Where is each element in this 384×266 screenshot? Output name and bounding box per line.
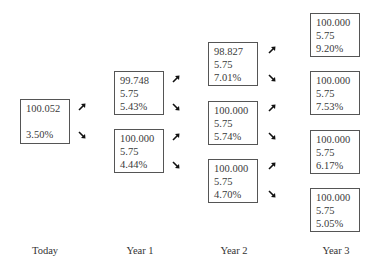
node-value: 100.000 [316,16,359,29]
node-year3-2: 100.000 5.75 7.53% [310,71,360,115]
arrow-down-right-icon [268,132,276,140]
node-today: 100.052 3.50% [20,99,70,144]
node-rate: 4.70% [214,188,257,201]
node-rate: 5.43% [120,100,163,113]
node-value: 100.052 [26,102,69,115]
column-label-year3: Year 3 [306,245,366,256]
node-year3-1: 100.000 5.75 9.20% [310,13,360,57]
arrow-up-right-icon [78,103,86,111]
node-coupon: 5.75 [316,204,359,217]
node-value: 100.000 [316,133,359,146]
arrow-down-right-icon [78,131,86,139]
node-coupon: 5.75 [214,117,257,130]
node-value: 100.000 [214,162,257,175]
node-coupon: 5.75 [316,29,359,42]
arrow-up-right-icon [172,133,180,141]
node-year3-4: 100.000 5.75 5.05% [310,188,360,232]
node-rate: 7.53% [316,100,359,113]
node-value: 100.000 [316,74,359,87]
node-coupon [26,115,69,128]
node-year3-3: 100.000 5.75 6.17% [310,130,360,174]
node-year2-ud: 100.000 5.75 5.74% [208,101,258,145]
node-coupon: 5.75 [316,146,359,159]
node-coupon: 5.75 [120,87,163,100]
arrow-up-right-icon [268,162,276,170]
node-rate: 5.74% [214,130,257,143]
arrow-down-right-icon [268,190,276,198]
node-coupon: 5.75 [316,87,359,100]
node-value: 99.748 [120,74,163,87]
node-value: 98.827 [214,45,257,58]
node-rate: 7.01% [214,71,257,84]
arrow-up-right-icon [268,46,276,54]
node-year1-up: 99.748 5.75 5.43% [114,71,164,115]
column-label-year1: Year 1 [110,245,170,256]
arrow-down-right-icon [172,161,180,169]
node-rate: 3.50% [26,128,69,141]
node-value: 100.000 [316,191,359,204]
node-coupon: 5.75 [214,175,257,188]
node-year1-down: 100.000 5.75 4.44% [114,129,164,173]
node-rate: 4.44% [120,158,163,171]
column-label-year2: Year 2 [204,245,264,256]
node-year2-uu: 98.827 5.75 7.01% [208,42,258,86]
column-label-today: Today [15,245,75,256]
node-rate: 6.17% [316,159,359,172]
arrow-up-right-icon [172,75,180,83]
arrow-down-right-icon [172,103,180,111]
node-value: 100.000 [214,104,257,117]
node-rate: 5.05% [316,217,359,230]
node-rate: 9.20% [316,42,359,55]
arrow-up-right-icon [268,104,276,112]
node-coupon: 5.75 [214,58,257,71]
node-coupon: 5.75 [120,145,163,158]
arrow-down-right-icon [268,74,276,82]
node-value: 100.000 [120,132,163,145]
node-year2-dd: 100.000 5.75 4.70% [208,159,258,203]
